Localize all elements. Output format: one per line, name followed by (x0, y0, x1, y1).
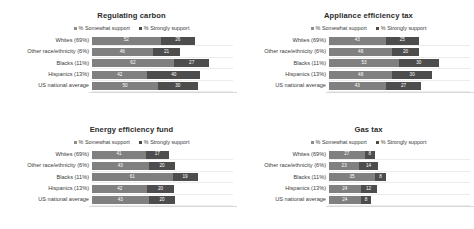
stacked-bar[interactable]: 4220 (92, 185, 174, 193)
bar-segment-strongly[interactable]: 40 (147, 71, 200, 79)
stacked-bar[interactable]: 5226 (92, 37, 195, 45)
bar-track: 4240 (92, 69, 233, 80)
bar-segment-strongly[interactable]: 8 (375, 173, 386, 181)
legend-label-somewhat: % Somewhat support (79, 139, 130, 145)
stacked-bar[interactable]: 248 (329, 196, 371, 204)
bar-segment-somewhat[interactable]: 62 (92, 59, 174, 67)
bar-segment-somewhat[interactable]: 43 (329, 82, 386, 90)
bar-segment-somewhat[interactable]: 48 (329, 71, 392, 79)
bar-segment-strongly[interactable]: 27 (174, 59, 210, 67)
bar-track: 6227 (92, 58, 233, 69)
bar-segment-somewhat[interactable]: 35 (329, 173, 375, 181)
bar-segment-strongly[interactable]: 8 (361, 196, 372, 204)
bar-segment-strongly[interactable]: 20 (149, 196, 175, 204)
bar-segment-strongly[interactable]: 25 (386, 37, 419, 45)
legend-label-strongly: % Strongly support (144, 139, 190, 145)
bar-track: 248 (329, 195, 470, 206)
stacked-bar[interactable]: 4820 (329, 48, 419, 56)
legend-swatch-icon (311, 27, 314, 30)
bar-track: 358 (329, 172, 470, 183)
bar-segment-strongly[interactable]: 20 (392, 48, 418, 56)
chart-row: US national average5030 (4, 81, 233, 92)
category-label: Hispanics (13%) (241, 72, 329, 78)
bar-track: 4117 (92, 149, 233, 160)
bar-segment-strongly[interactable]: 26 (161, 37, 195, 45)
stacked-bar[interactable]: 6227 (92, 59, 209, 67)
stacked-bar[interactable]: 278 (329, 151, 375, 159)
bar-segment-somewhat[interactable]: 43 (92, 162, 149, 170)
chart-title: Regulating carbon (0, 0, 237, 20)
bar-segment-strongly[interactable]: 12 (361, 185, 377, 193)
stacked-bar[interactable]: 5030 (92, 82, 198, 90)
stacked-bar[interactable]: 2314 (329, 162, 378, 170)
axis-baseline (326, 92, 474, 93)
stacked-bar[interactable]: 4621 (92, 48, 180, 56)
stacked-bar[interactable]: 5330 (329, 59, 439, 67)
stacked-bar[interactable]: 4325 (329, 37, 419, 45)
bar-segment-strongly[interactable]: 30 (399, 59, 439, 67)
chart-panel-appliance-efficiency-tax: Appliance efficiency tax % Somewhat supp… (237, 0, 474, 114)
chart-panel-energy-efficiency-fund: Energy efficiency fund % Somewhat suppor… (0, 114, 237, 229)
legend-swatch-icon (311, 141, 314, 144)
bar-segment-somewhat[interactable]: 42 (92, 185, 147, 193)
bar-track: 4830 (329, 69, 470, 80)
stacked-bar[interactable]: 4320 (92, 196, 175, 204)
bar-segment-somewhat[interactable]: 46 (92, 48, 153, 56)
bar-track: 4220 (92, 183, 233, 194)
bar-segment-strongly[interactable]: 21 (153, 48, 181, 56)
bar-segment-strongly[interactable]: 20 (147, 185, 173, 193)
chart-title: Appliance efficiency tax (237, 0, 474, 20)
bar-segment-somewhat[interactable]: 27 (329, 151, 365, 159)
category-label: Blacks (11%) (4, 175, 92, 181)
category-label: Whites (69%) (241, 152, 329, 158)
legend-swatch-icon (74, 141, 77, 144)
bar-segment-somewhat[interactable]: 41 (92, 151, 146, 159)
bar-segment-somewhat[interactable]: 43 (92, 196, 149, 204)
legend-entry-somewhat: % Somewhat support (311, 139, 367, 145)
bar-segment-somewhat[interactable]: 48 (329, 48, 392, 56)
stacked-bar[interactable]: 4327 (329, 82, 421, 90)
bar-segment-somewhat[interactable]: 50 (92, 82, 158, 90)
category-label: US national average (4, 197, 92, 203)
bar-segment-strongly[interactable]: 30 (158, 82, 198, 90)
bar-segment-somewhat[interactable]: 52 (92, 37, 161, 45)
bar-segment-strongly[interactable]: 8 (365, 151, 376, 159)
legend-label-somewhat: % Somewhat support (79, 25, 130, 31)
stacked-bar[interactable]: 4117 (92, 151, 169, 159)
bar-segment-strongly[interactable]: 20 (149, 162, 175, 170)
chart-legend: % Somewhat support % Strongly support (0, 25, 237, 31)
stacked-bar[interactable]: 4240 (92, 71, 200, 79)
bar-segment-somewhat[interactable]: 24 (329, 185, 361, 193)
bar-segment-strongly[interactable]: 27 (386, 82, 422, 90)
stacked-bar[interactable]: 4830 (329, 71, 432, 79)
stacked-bar[interactable]: 358 (329, 173, 386, 181)
category-label: Blacks (11%) (241, 61, 329, 67)
chart-panel-gas-tax: Gas tax % Somewhat support % Strongly su… (237, 114, 474, 229)
bar-segment-strongly[interactable]: 30 (392, 71, 432, 79)
bar-segment-somewhat[interactable]: 24 (329, 196, 361, 204)
chart-row: US national average4327 (241, 81, 470, 92)
chart-panel-regulating-carbon: Regulating carbon % Somewhat support % S… (0, 0, 237, 114)
stacked-bar[interactable]: 6119 (92, 173, 198, 181)
bar-segment-strongly[interactable]: 19 (173, 173, 198, 181)
bar-segment-somewhat[interactable]: 43 (329, 37, 386, 45)
legend-entry-somewhat: % Somewhat support (74, 139, 130, 145)
bar-track: 2412 (329, 183, 470, 194)
legend-swatch-icon (376, 141, 379, 144)
chart-row: Whites (69%)4325 (241, 35, 470, 46)
stacked-bar[interactable]: 2412 (329, 185, 377, 193)
bar-segment-strongly[interactable]: 17 (146, 151, 168, 159)
bar-segment-somewhat[interactable]: 42 (92, 71, 147, 79)
bar-segment-somewhat[interactable]: 61 (92, 173, 173, 181)
bar-track: 5030 (92, 81, 233, 92)
bar-segment-strongly[interactable]: 14 (359, 162, 377, 170)
category-label: Blacks (11%) (4, 61, 92, 67)
plot-area: Whites (69%)4325Other race/ethnicity (6%… (237, 35, 474, 92)
category-label: Whites (69%) (241, 38, 329, 44)
legend-swatch-icon (74, 27, 77, 30)
bar-track: 4320 (92, 160, 233, 171)
category-label: Whites (69%) (4, 152, 92, 158)
bar-segment-somewhat[interactable]: 23 (329, 162, 359, 170)
stacked-bar[interactable]: 4320 (92, 162, 175, 170)
bar-segment-somewhat[interactable]: 53 (329, 59, 399, 67)
